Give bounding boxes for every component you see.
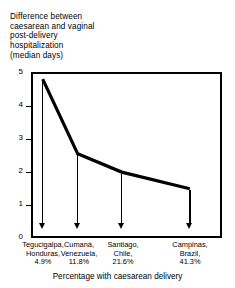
title-line-5: (median days) (10, 51, 160, 61)
category-label-santiago: Santiago, Chile, 21.6% (88, 241, 158, 267)
y-tick-label-0: 0 (9, 233, 23, 241)
y-tick-label-5: 5 (9, 68, 23, 76)
category-label-campinas: Campinas, Brazil, 41.3% (155, 241, 225, 267)
title-line-1: Difference between (10, 12, 160, 22)
chart-title: Difference between caesarean and vaginal… (10, 12, 160, 61)
percent-line: 21.6% (88, 258, 158, 267)
y-tick-label-3: 3 (9, 134, 23, 142)
percent-line: 41.3% (155, 258, 225, 267)
plot-frame (31, 72, 222, 238)
y-tick-label-1: 1 (9, 200, 23, 208)
y-tick-label-4: 4 (9, 101, 23, 109)
title-line-4: hospitalization (10, 41, 160, 51)
y-tick-label-2: 2 (9, 167, 23, 175)
category-labels: Tegucigalpa, Honduras, 4.9% Cumaná, Vene… (0, 241, 235, 271)
x-axis-label: Percentage with caesarean delivery (0, 272, 235, 281)
chart-figure: Difference between caesarean and vaginal… (0, 0, 235, 288)
title-line-3: post-delivery (10, 31, 160, 41)
title-line-2: caesarean and vaginal (10, 22, 160, 32)
